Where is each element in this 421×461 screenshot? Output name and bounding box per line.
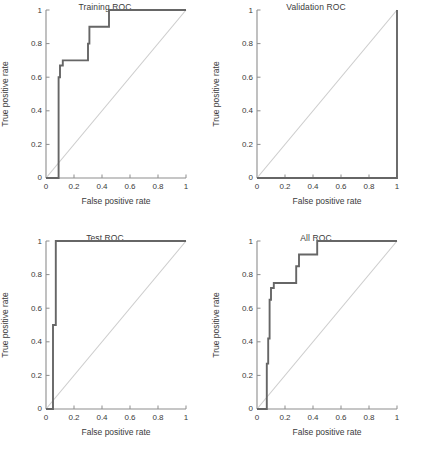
x-tick-label: 0 <box>34 413 58 422</box>
x-axis-label: False positive rate <box>46 427 186 437</box>
y-tick-label: 0.6 <box>227 304 253 313</box>
x-tick-label: 1 <box>385 413 409 422</box>
x-axis-label: False positive rate <box>46 196 186 206</box>
panel-training-roc: Training ROC True positive rate <box>0 0 210 230</box>
x-tick-label: 1 <box>174 413 198 422</box>
y-tick-label: 0.6 <box>16 73 42 82</box>
chance-diagonal-line <box>46 241 186 409</box>
y-tick-label: 0 <box>16 404 42 413</box>
y-tick-label: 0 <box>227 404 253 413</box>
panel-test-roc: Test ROC True positive rate <box>0 231 210 461</box>
x-axis-label: False positive rate <box>257 427 397 437</box>
roc-plot-svg <box>46 10 186 178</box>
x-tick-label: 0 <box>245 182 269 191</box>
y-tick-label: 0.6 <box>16 304 42 313</box>
roc-figure: Training ROC True positive rate <box>0 0 421 461</box>
y-tick-label: 0.8 <box>16 39 42 48</box>
x-tick-label: 0.8 <box>146 182 170 191</box>
y-tick-label: 0.4 <box>227 106 253 115</box>
chance-diagonal-line <box>46 10 186 178</box>
y-tick-label: 1 <box>227 6 253 15</box>
y-axis-label: True positive rate <box>211 241 225 409</box>
x-tick-label: 0.2 <box>62 413 86 422</box>
roc-plot-svg <box>46 241 186 409</box>
y-tick-label: 0.6 <box>227 73 253 82</box>
plot-area: 0 0.2 0.4 0.6 0.8 1 <box>46 241 186 409</box>
y-tick-label: 0.4 <box>227 337 253 346</box>
x-tick-label: 0.6 <box>329 413 353 422</box>
roc-plot-svg <box>257 10 397 178</box>
y-tick-label: 0.8 <box>227 39 253 48</box>
plot-area: 0 0.2 0.4 0.6 0.8 1 <box>257 10 397 178</box>
y-tick-label: 0 <box>16 173 42 182</box>
x-tick-label: 1 <box>174 182 198 191</box>
y-tick-label: 0.8 <box>227 270 253 279</box>
x-tick-label: 0.4 <box>90 413 114 422</box>
y-tick-label: 1 <box>227 237 253 246</box>
y-tick-label: 0.2 <box>16 140 42 149</box>
x-tick-label: 0.8 <box>146 413 170 422</box>
y-tick-label: 1 <box>16 6 42 15</box>
chance-diagonal-line <box>257 10 397 178</box>
y-tick-label: 0.2 <box>227 140 253 149</box>
x-tick-label: 0.2 <box>273 182 297 191</box>
y-axis-label: True positive rate <box>211 10 225 178</box>
x-tick-label: 0.2 <box>273 413 297 422</box>
y-tick-label: 1 <box>16 237 42 246</box>
x-tick-label: 0.2 <box>62 182 86 191</box>
x-tick-label: 0.4 <box>301 413 325 422</box>
y-tick-label: 0.4 <box>16 337 42 346</box>
panel-validation-roc: Validation ROC True positive rate <box>211 0 421 230</box>
x-axis-label: False positive rate <box>257 196 397 206</box>
x-tick-label: 0.6 <box>329 182 353 191</box>
y-tick-label: 0.4 <box>16 106 42 115</box>
x-tick-label: 0.6 <box>118 182 142 191</box>
y-axis-label: True positive rate <box>0 10 14 178</box>
x-tick-label: 0 <box>245 413 269 422</box>
x-tick-label: 1 <box>385 182 409 191</box>
y-tick-label: 0.2 <box>16 371 42 380</box>
x-tick-label: 0 <box>34 182 58 191</box>
y-tick-label: 0.2 <box>227 371 253 380</box>
y-axis-label: True positive rate <box>0 241 14 409</box>
plot-area: 0 0.2 0.4 0.6 0.8 1 <box>257 241 397 409</box>
panel-all-roc: All ROC True positive rate <box>211 231 421 461</box>
x-tick-label: 0.8 <box>357 182 381 191</box>
y-tick-label: 0.8 <box>16 270 42 279</box>
x-tick-label: 0.4 <box>90 182 114 191</box>
x-tick-label: 0.6 <box>118 413 142 422</box>
x-tick-label: 0.8 <box>357 413 381 422</box>
y-tick-label: 0 <box>227 173 253 182</box>
plot-area: 0 0.2 0.4 0.6 0.8 1 <box>46 10 186 178</box>
roc-plot-svg <box>257 241 397 409</box>
chance-diagonal-line <box>257 241 397 409</box>
x-tick-label: 0.4 <box>301 182 325 191</box>
